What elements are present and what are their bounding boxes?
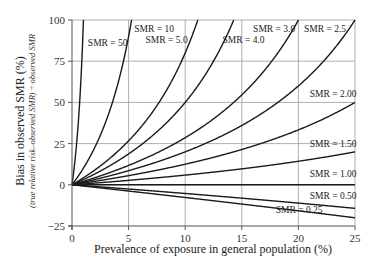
y-tick-label: −25 (48, 220, 66, 232)
curve-label: SMR = 0.50 (310, 191, 357, 201)
curve-label: SMR = 5.0 (146, 35, 188, 45)
y-axis-subtitle: (true relative risk–observed SMR) ÷ obse… (27, 33, 37, 208)
y-tick-label: 25 (54, 138, 66, 150)
curve-label: SMR = 1.50 (310, 139, 357, 149)
curve-label: SMR = 0.25 (276, 205, 323, 215)
curves (72, 20, 355, 218)
y-axis-title: Bias in observed SMR (%) (13, 56, 27, 185)
y-tick-label: 0 (60, 179, 66, 191)
curve-label: SMR = 50 (88, 38, 128, 48)
x-tick-label: 25 (350, 232, 362, 244)
y-tick-label: 75 (54, 55, 66, 67)
curve-label: SMR = 3.0 (253, 24, 295, 34)
x-axis-title: Prevalence of exposure in general popula… (94, 242, 332, 256)
curve-label: SMR = 2.5 (304, 24, 346, 34)
curve-label: SMR = 1.00 (310, 169, 357, 179)
curve-label: SMR = 10 (134, 24, 174, 34)
chart: 0510152025−250255075100 SMR = 50SMR = 10… (0, 0, 375, 274)
y-tick-label: 50 (54, 96, 66, 108)
curve-label: SMR = 4.0 (223, 35, 265, 45)
x-tick-label: 0 (69, 232, 75, 244)
curve-labels: SMR = 50SMR = 10SMR = 5.0SMR = 4.0SMR = … (88, 24, 357, 215)
y-tick-label: 100 (49, 14, 66, 26)
curve-label: SMR = 2.00 (310, 89, 357, 99)
